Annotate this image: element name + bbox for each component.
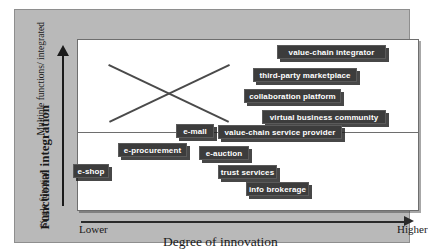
node-box: e-auction bbox=[199, 146, 249, 160]
y-axis-line bbox=[62, 54, 64, 206]
node-box: value-chain service provider bbox=[218, 125, 342, 139]
node-box: virtual business community bbox=[262, 110, 386, 124]
x-axis-line bbox=[81, 221, 408, 223]
node-box: info brokerage bbox=[246, 182, 309, 196]
node-box: e-mall bbox=[176, 124, 214, 138]
node-box: collaboration platform bbox=[244, 89, 341, 103]
y-axis-bottom-tick-label: Single function bbox=[40, 170, 50, 228]
node-box: value-chain integrator bbox=[277, 45, 386, 59]
node-box: e-shop bbox=[73, 164, 109, 178]
x-axis-title: Degree of innovation bbox=[163, 234, 278, 250]
node-box: third-party marketplace bbox=[253, 68, 357, 82]
x-axis-low-tick-label: Lower bbox=[79, 223, 108, 235]
x-axis-high-tick-label: Higher bbox=[397, 223, 428, 235]
node-box: trust services bbox=[218, 165, 277, 179]
node-box: e-procurement bbox=[118, 143, 187, 157]
